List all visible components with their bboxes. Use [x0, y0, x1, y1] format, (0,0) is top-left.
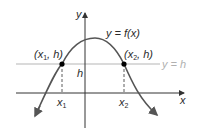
point-label-1: (x1, h)	[34, 48, 63, 61]
function-label: y = f(x)	[105, 27, 140, 39]
function-diagram: y x y = f(x) y = h h (x1, h) (x2, h) x1 …	[0, 0, 202, 137]
h-label: h	[77, 67, 83, 79]
horizontal-line-label: y = h	[161, 58, 186, 70]
x1-tick-label: x1	[56, 96, 67, 109]
x2-tick-label: x2	[118, 96, 129, 109]
point-x1-h	[59, 61, 64, 66]
y-axis-label: y	[75, 8, 83, 20]
point-x2-h	[121, 61, 126, 66]
x-axis-label: x	[179, 94, 186, 106]
function-curve-left-arrow	[35, 106, 40, 116]
point-label-2: (x2, h)	[124, 48, 153, 61]
